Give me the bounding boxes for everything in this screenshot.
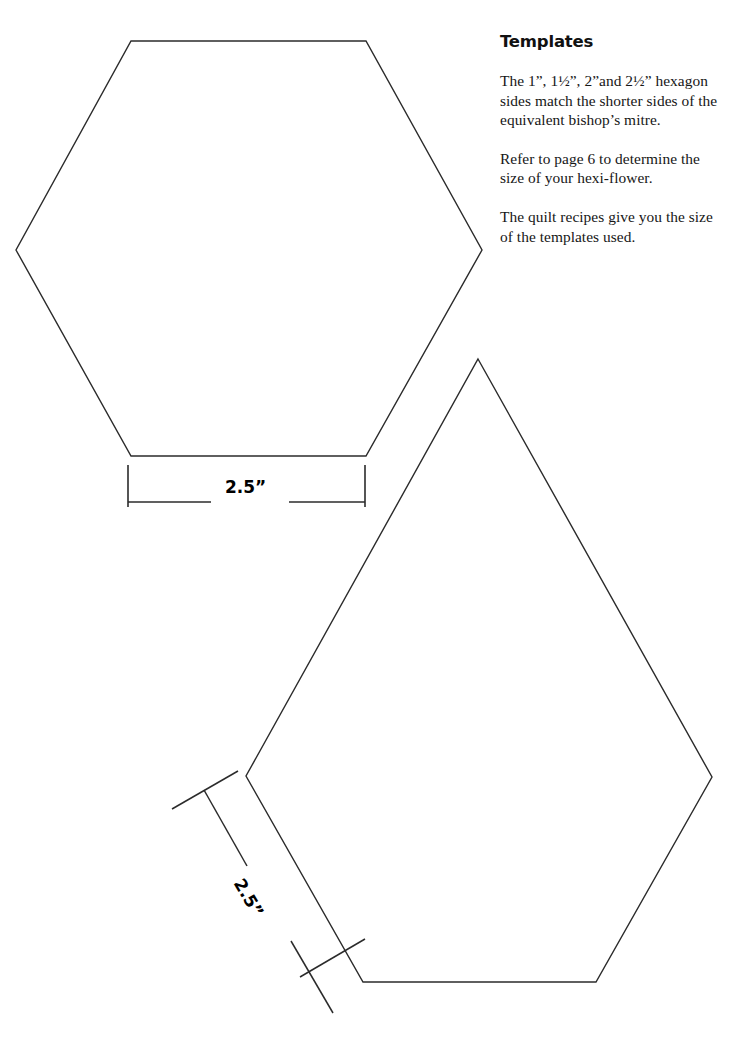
hexagon-dimension-label: 2.5” (225, 477, 266, 497)
templates-paragraph-2: Refer to page 6 to determine the size of… (500, 149, 718, 188)
page-canvas: 2.5” 2.5” Templates The 1”, 1½”, 2”and 2… (0, 0, 749, 1050)
mitre-dimension-tick-top (172, 771, 238, 809)
hexagon-template-outline (16, 41, 482, 456)
mitre-dimension-tick-bottom (300, 939, 365, 977)
mitre-dimension-line-lower (291, 941, 333, 1013)
bishops-mitre-template-outline (246, 359, 712, 982)
templates-text-panel: Templates The 1”, 1½”, 2”and 2½” hexagon… (500, 33, 718, 246)
page-title: Templates (500, 33, 718, 51)
templates-paragraph-1: The 1”, 1½”, 2”and 2½” hexagon sides mat… (500, 71, 718, 130)
templates-paragraph-3: The quilt recipes give you the size of t… (500, 207, 718, 246)
mitre-dimension-line-upper (204, 790, 247, 866)
